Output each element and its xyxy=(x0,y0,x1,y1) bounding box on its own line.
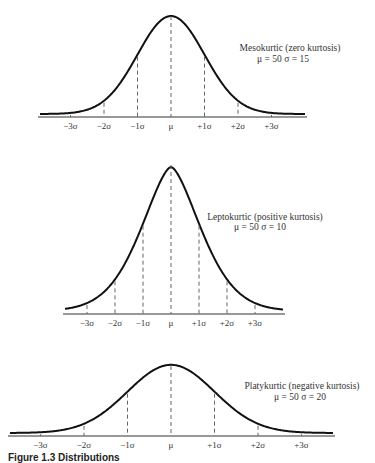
platykurtic-params: μ = 50 σ = 20 xyxy=(274,392,326,402)
tick-label: +3σ xyxy=(264,121,279,131)
tick-label: +3σ xyxy=(248,318,263,328)
tick-label: +2σ xyxy=(251,440,266,450)
tick-label: μ xyxy=(169,440,174,450)
tick-label: +1σ xyxy=(207,440,222,450)
tick-label: −2σ xyxy=(108,318,123,328)
tick-label: +3σ xyxy=(294,440,309,450)
platykurtic-title: Platykurtic (negative kurtosis) xyxy=(244,381,359,392)
tick-label: −3σ xyxy=(33,440,48,450)
tick-label: −3σ xyxy=(80,318,95,328)
tick-label: +2σ xyxy=(231,121,246,131)
tick-label: −2σ xyxy=(77,440,92,450)
distribution-curve xyxy=(40,16,305,114)
distribution-curve xyxy=(65,167,283,310)
tick-label: μ xyxy=(169,121,174,131)
figure-caption: Figure 1.3 Distributions xyxy=(8,452,120,463)
leptokurtic-chart: −3σ−2σ−1σμ+1σ+2σ+3σ xyxy=(63,165,285,328)
tick-label: +2σ xyxy=(220,318,235,328)
mesokurtic-chart: −3σ−2σ−1σμ+1σ+2σ+3σ xyxy=(38,16,307,131)
mesokurtic-params: μ = 50 σ = 15 xyxy=(257,54,309,64)
tick-label: −2σ xyxy=(97,121,112,131)
leptokurtic-params: μ = 50 σ = 10 xyxy=(234,222,286,232)
tick-label: μ xyxy=(169,318,174,328)
tick-label: +1σ xyxy=(197,121,212,131)
tick-label: −1σ xyxy=(130,121,145,131)
tick-label: +1σ xyxy=(192,318,207,328)
platykurtic-chart: −3σ−2σ−1σμ+1σ+2σ+3σ xyxy=(8,365,335,450)
tick-label: −1σ xyxy=(136,318,151,328)
mesokurtic-title: Mesokurtic (zero kurtosis) xyxy=(240,43,341,54)
tick-label: −3σ xyxy=(63,121,78,131)
tick-label: −1σ xyxy=(120,440,135,450)
